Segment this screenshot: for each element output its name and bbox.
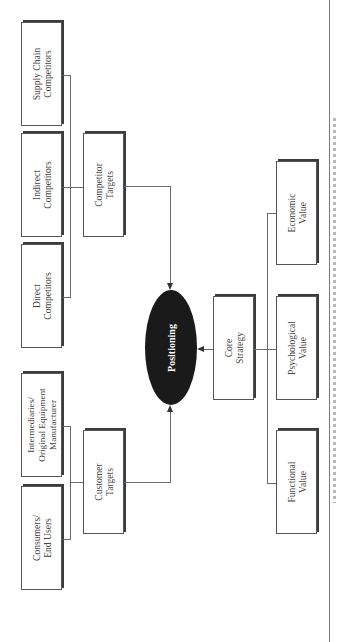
- node-label: Competitor Targets: [93, 133, 115, 237]
- connector-line: [267, 483, 276, 484]
- connector-line: [70, 482, 83, 483]
- connector-line: [63, 187, 83, 188]
- node-label: Supply Chain Competitors: [31, 22, 53, 126]
- node-label: Direct Competitors: [31, 244, 53, 348]
- positioning-diagram: Supply Chain Competitors Indirect Compet…: [0, 0, 337, 642]
- node-direct-competitors: Direct Competitors: [21, 244, 62, 348]
- node-psychological-value: Psychological Value: [276, 296, 317, 400]
- node-label: Functional Value: [286, 430, 308, 534]
- arrowhead-icon: [197, 346, 204, 352]
- edge-competitor-to-positioning: [124, 186, 171, 187]
- node-label: Customer Targets: [93, 430, 115, 534]
- node-label: Indirect Competitors: [31, 133, 53, 237]
- node-functional-value: Functional Value: [276, 430, 317, 534]
- edge-strategy-to-positioning: [204, 349, 213, 350]
- node-label: Intermediaries/ Original Equipment Manuf…: [25, 373, 58, 477]
- connector-line: [254, 349, 276, 350]
- node-economic-value: Economic Value: [276, 161, 317, 265]
- node-label: Economic Value: [286, 161, 308, 265]
- connector-line: [267, 213, 268, 484]
- node-positioning: Positioning: [145, 290, 197, 405]
- node-label: Core Strategy: [223, 296, 245, 400]
- node-supply-chain-competitors: Supply Chain Competitors: [21, 22, 62, 126]
- node-intermediaries-oem: Intermediaries/ Original Equipment Manuf…: [21, 373, 62, 477]
- page-rule-divider: [329, 0, 330, 642]
- edge-customer-to-positioning: [124, 482, 171, 483]
- arrowhead-icon: [167, 405, 173, 412]
- connector-line: [70, 426, 71, 540]
- arrowhead-icon: [167, 283, 173, 290]
- clipped-figure-caption: [333, 118, 336, 503]
- node-customer-targets: Customer Targets: [83, 430, 124, 534]
- node-core-strategy: Core Strategy: [213, 296, 254, 400]
- node-competitor-targets: Competitor Targets: [83, 133, 124, 237]
- node-label: Psychological Value: [286, 296, 308, 400]
- connector-line: [267, 213, 276, 214]
- edge-competitor-to-positioning: [170, 186, 171, 283]
- node-indirect-competitors: Indirect Competitors: [21, 133, 62, 237]
- node-label: Consumers/ End Users: [31, 486, 53, 590]
- node-label: Positioning: [166, 293, 177, 403]
- node-consumers-end-users: Consumers/ End Users: [21, 486, 62, 590]
- edge-customer-to-positioning: [170, 412, 171, 483]
